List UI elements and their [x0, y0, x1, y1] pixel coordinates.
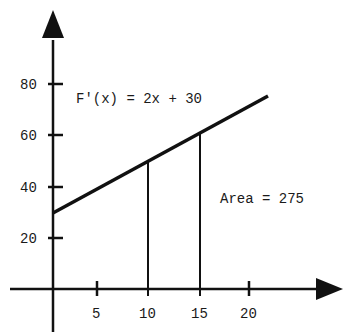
area-annotation: Area = 275 [220, 191, 304, 207]
x-tick-label-20: 20 [240, 306, 257, 322]
y-tick-label-40: 40 [20, 180, 37, 196]
x-tick-label-5: 5 [92, 306, 100, 322]
function-label: F'(x) = 2x + 30 [76, 91, 202, 107]
y-ticks [48, 84, 63, 238]
y-tick-label-60: 60 [20, 128, 37, 144]
chart-canvas: 80 60 40 20 5 10 15 20 F'(x) = 2x + 30 A… [0, 0, 343, 332]
y-tick-label-80: 80 [20, 77, 37, 93]
x-tick-label-15: 15 [191, 306, 208, 322]
x-tick-label-10: 10 [139, 306, 156, 322]
x-axis-arrow-icon [316, 278, 343, 300]
y-tick-label-20: 20 [20, 231, 37, 247]
y-axis-arrow-icon [42, 10, 64, 38]
